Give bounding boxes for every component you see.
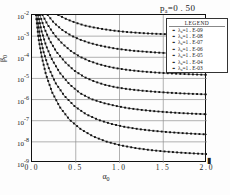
data-point-marker	[146, 90, 148, 92]
x-axis-tick-labels: 0 . 00 . 51 . 01 . 52 . 0	[31, 163, 206, 175]
legend-item: ▪ ▪λa=1 . E-03	[169, 65, 225, 71]
data-point-marker	[81, 24, 83, 26]
data-point-marker	[112, 104, 114, 106]
data-point-marker	[77, 22, 79, 24]
data-point-marker	[74, 70, 76, 72]
data-point-marker	[108, 85, 110, 87]
legend-marker-icon: ▪ ▪	[169, 28, 178, 33]
data-point-marker	[118, 30, 120, 32]
data-point-marker	[68, 99, 70, 101]
data-point-marker	[180, 152, 182, 154]
y-axis-tick: 10-5	[1, 73, 29, 84]
legend-marker-icon: ▪ ▪	[169, 40, 178, 45]
data-point-marker	[42, 60, 44, 62]
legend-marker-icon: ▪ ▪	[169, 66, 178, 71]
data-point-marker	[112, 86, 114, 88]
data-point-marker	[197, 153, 199, 155]
data-point-marker	[150, 71, 152, 73]
data-point-marker	[203, 133, 205, 135]
data-point-marker	[96, 100, 98, 102]
data-point-marker	[110, 142, 112, 144]
data-point-marker	[151, 33, 153, 35]
data-point-marker	[114, 143, 116, 145]
data-point-marker	[183, 112, 185, 114]
data-point-marker	[178, 112, 180, 114]
data-point-marker	[45, 72, 47, 74]
legend-marker-icon: ▪ ▪	[169, 34, 178, 39]
chart-figure: pa=0 . 50 β0 10-210-310-410-510-610-710-…	[0, 0, 230, 195]
data-point-marker	[42, 34, 44, 36]
data-point-marker	[206, 153, 207, 155]
data-point-marker	[190, 133, 192, 135]
data-point-marker	[87, 132, 89, 134]
data-point-marker	[145, 109, 147, 111]
data-point-marker	[137, 89, 139, 91]
data-point-marker	[130, 146, 132, 148]
data-point-marker	[179, 92, 181, 94]
data-point-marker	[133, 89, 135, 91]
data-point-marker	[36, 27, 38, 29]
data-point-marker	[93, 27, 95, 29]
data-point-marker	[80, 110, 82, 112]
data-point-marker	[40, 39, 42, 41]
data-point-marker	[88, 60, 90, 62]
data-point-marker	[134, 147, 136, 149]
data-point-marker	[143, 32, 145, 34]
data-point-marker	[185, 152, 187, 154]
data-point-marker	[40, 52, 42, 54]
data-point-marker	[51, 75, 53, 77]
data-point-marker	[73, 122, 75, 124]
data-point-marker	[52, 32, 54, 34]
y-axis-tick-labels: 10-210-310-410-510-610-710-810-9	[0, 14, 29, 162]
data-point-marker	[53, 79, 55, 81]
data-point-marker	[161, 131, 163, 133]
data-point-marker	[42, 15, 44, 16]
data-point-marker	[196, 93, 198, 95]
data-point-marker	[81, 75, 83, 77]
data-point-marker	[102, 139, 104, 141]
data-point-marker	[60, 42, 62, 44]
data-point-marker	[104, 65, 106, 67]
data-point-marker	[92, 61, 94, 63]
data-point-marker	[142, 71, 144, 73]
data-point-marker	[205, 74, 207, 76]
data-point-marker	[49, 84, 51, 86]
y-axis-tick: 10-8	[1, 137, 29, 148]
data-point-marker	[59, 107, 61, 109]
data-point-marker	[65, 79, 67, 81]
data-point-marker	[39, 43, 41, 45]
data-point-marker	[144, 129, 146, 131]
data-point-marker	[101, 28, 103, 30]
data-point-marker	[120, 106, 122, 108]
data-point-marker	[122, 145, 124, 147]
data-point-marker	[44, 68, 46, 70]
data-point-marker	[48, 25, 50, 27]
data-point-marker	[129, 69, 131, 71]
data-point-marker	[117, 67, 119, 69]
data-point-marker	[104, 102, 106, 104]
data-point-marker	[57, 15, 59, 16]
data-point-marker	[148, 129, 150, 131]
data-point-marker	[157, 111, 159, 113]
data-point-marker	[49, 54, 51, 56]
legend-entries: ▪ ▪λa=1 . E-09▪ ▪λa=1 . E-08▪ ▪λa=1 . E-…	[169, 27, 225, 72]
data-point-marker	[62, 58, 64, 60]
data-point-marker	[65, 62, 67, 64]
data-point-marker	[200, 93, 202, 95]
data-point-marker	[104, 46, 106, 48]
data-point-marker	[166, 111, 168, 113]
data-point-marker	[137, 108, 139, 110]
data-point-marker	[116, 105, 118, 107]
data-point-marker	[85, 25, 87, 27]
data-point-marker	[50, 41, 52, 43]
data-point-marker	[57, 103, 59, 105]
data-point-marker	[188, 73, 190, 75]
data-point-marker	[115, 124, 117, 126]
data-point-marker	[47, 80, 49, 82]
data-point-marker	[62, 93, 64, 95]
data-point-marker	[171, 92, 173, 94]
data-point-marker	[62, 76, 64, 78]
data-point-marker	[127, 127, 129, 129]
data-point-marker	[129, 88, 131, 90]
data-point-marker	[192, 93, 194, 95]
